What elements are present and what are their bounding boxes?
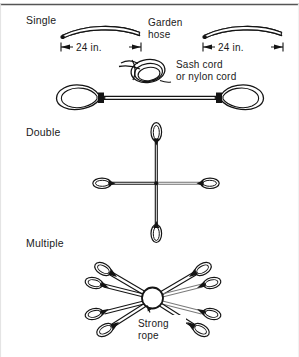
dimension-hose-right: 24 in. (203, 40, 283, 54)
hose-right-end-cap (202, 35, 207, 39)
section-label-multiple: Multiple (26, 237, 64, 249)
callout-strong-rope-line1: Strong (138, 318, 169, 329)
hose-left-end-cap (60, 35, 65, 39)
dimension-hose-left: 24 in. (61, 40, 141, 54)
rope-sling-figure: Single Double Multiple 24 in. (0, 0, 299, 357)
section-label-single: Single (26, 14, 56, 26)
callout-garden-hose-line2: hose (148, 29, 171, 40)
strong-rope-cross-section (142, 288, 163, 309)
callout-sash-cord-line2: or nylon cord (176, 71, 236, 82)
callout-sash-cord-line1: Sash cord (176, 59, 223, 70)
double-center-junction (154, 181, 158, 185)
figure-page: Single Double Multiple 24 in. (0, 0, 299, 357)
dimension-label-left: 24 in. (76, 42, 102, 53)
callout-garden-hose-line1: Garden (148, 17, 183, 28)
dimension-label-right: 24 in. (218, 42, 244, 53)
callout-strong-rope-line2: rope (138, 330, 159, 341)
section-label-double: Double (26, 126, 60, 138)
